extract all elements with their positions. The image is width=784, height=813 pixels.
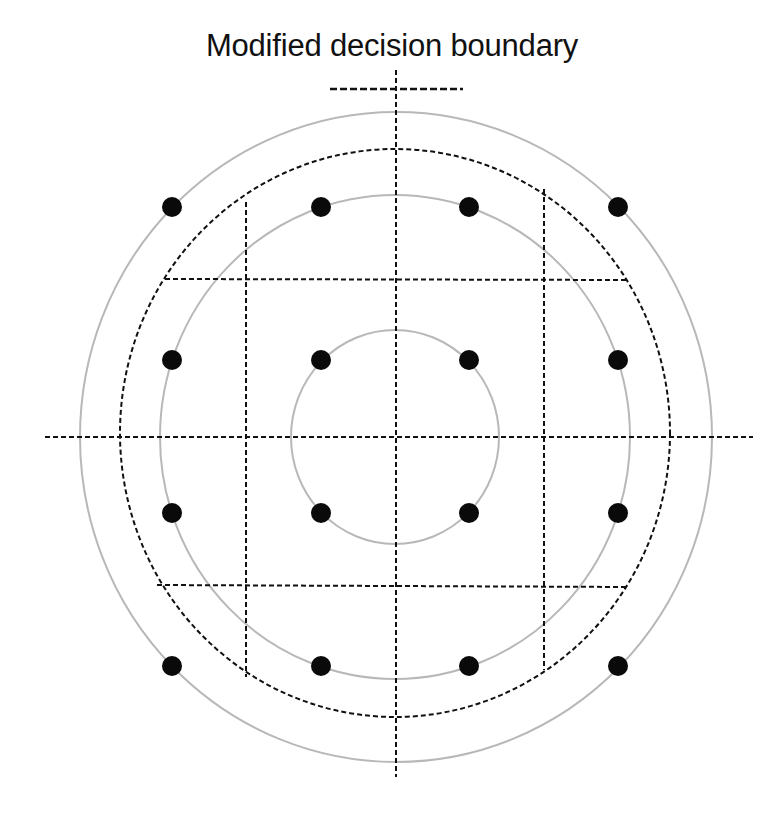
constellation-point (608, 656, 628, 676)
constellation-point (459, 656, 479, 676)
constellation-point (608, 350, 628, 370)
constellation-point (459, 503, 479, 523)
constellation-point (162, 350, 182, 370)
constellation-point (608, 197, 628, 217)
constellation-point (459, 197, 479, 217)
constellation-point (311, 503, 331, 523)
constellation-point (311, 350, 331, 370)
constellation-point (459, 350, 479, 370)
constellation-diagram (0, 0, 784, 813)
constellation-point (311, 656, 331, 676)
constellation-point (311, 197, 331, 217)
axes (45, 70, 753, 777)
constellation-point (162, 197, 182, 217)
constellation-point (162, 656, 182, 676)
constellation-point (162, 503, 182, 523)
constellation-point (608, 503, 628, 523)
grid-line-3 (157, 585, 628, 587)
